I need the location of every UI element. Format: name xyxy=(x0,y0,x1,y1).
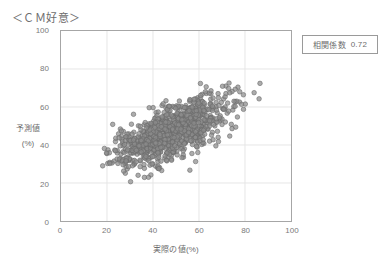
scatter-point xyxy=(201,128,206,133)
x-axis-tick-80: 80 xyxy=(226,226,266,235)
x-axis-tick-0: 0 xyxy=(40,226,80,235)
x-axis-title: 実際の値(%) xyxy=(60,243,292,254)
scatter-point xyxy=(207,119,212,124)
scatter-point xyxy=(198,81,203,86)
scatter-point xyxy=(130,132,135,137)
y-axis-tick-20: 20 xyxy=(9,179,49,188)
scatter-point xyxy=(169,113,174,118)
scatter-point xyxy=(185,113,190,118)
scatter-point xyxy=(144,126,149,131)
scatter-point xyxy=(177,99,182,104)
scatter-point xyxy=(119,129,124,134)
scatter-point xyxy=(131,138,136,143)
scatter-point xyxy=(117,136,122,141)
scatter-point xyxy=(202,101,207,106)
scatter-point xyxy=(241,107,246,112)
scatter-point xyxy=(139,138,144,143)
scatter-point xyxy=(116,161,121,166)
scatter-point xyxy=(182,105,187,110)
scatter-point xyxy=(232,99,237,104)
scatter-point xyxy=(180,117,185,122)
scatter-point xyxy=(216,96,221,101)
scatter-point xyxy=(122,142,127,147)
chart-title: ＜ＣＭ好意＞ xyxy=(12,9,80,25)
correlation-coefficient-box: 相関係数 0.72 xyxy=(302,35,378,54)
scatter-point xyxy=(211,137,216,142)
correlation-value: 0.72 xyxy=(351,40,367,49)
scatter-point xyxy=(165,133,170,138)
scatter-point xyxy=(134,148,139,153)
scatter-point xyxy=(138,164,143,169)
scatter-point xyxy=(176,122,181,127)
scatter-point xyxy=(163,127,168,132)
scatter-point xyxy=(189,138,194,143)
scatter-point xyxy=(170,127,175,132)
y-axis-title: 予測値 (%) xyxy=(6,121,50,151)
scatter-point xyxy=(169,158,174,163)
scatter-point xyxy=(229,122,234,127)
scatter-point xyxy=(209,88,214,93)
scatter-point xyxy=(121,163,126,168)
scatter-point xyxy=(216,135,221,140)
scatter-point xyxy=(180,155,185,160)
scatter-point xyxy=(153,125,158,130)
scatter-point xyxy=(188,97,193,102)
scatter-point xyxy=(157,166,162,171)
scatter-point xyxy=(227,134,232,139)
scatter-point xyxy=(204,85,209,90)
scatter-point xyxy=(216,139,221,144)
scatter-point xyxy=(220,84,225,89)
scatter-point xyxy=(159,159,164,164)
scatter-point xyxy=(228,91,233,96)
scatter-point xyxy=(164,158,169,163)
scatter-point xyxy=(136,173,141,178)
scatter-point xyxy=(221,107,226,112)
scatter-point xyxy=(233,104,238,109)
scatter-point xyxy=(100,164,105,169)
scatter-point xyxy=(227,81,232,86)
scatter-point xyxy=(215,129,220,134)
scatter-point xyxy=(217,115,222,120)
scatter-point xyxy=(193,135,198,140)
y-axis-tick-80: 80 xyxy=(9,64,49,73)
scatter-point xyxy=(226,109,231,114)
scatter-point xyxy=(131,112,136,117)
scatter-point xyxy=(202,108,207,113)
scatter-point xyxy=(207,107,212,112)
scatter-point xyxy=(139,150,144,155)
scatter-point xyxy=(211,96,216,101)
scatter-point xyxy=(110,122,115,127)
scatter-point xyxy=(164,113,169,118)
scatter-point xyxy=(190,151,195,156)
y-axis-tick-100: 100 xyxy=(9,26,49,35)
scatter-point xyxy=(161,102,166,107)
scatter-point xyxy=(181,149,186,154)
scatter-chart: ＜ＣＭ好意＞ 相関係数 0.72 020406080100 0204060801… xyxy=(0,0,387,271)
scatter-point xyxy=(252,90,257,95)
scatter-point xyxy=(198,93,203,98)
scatter-point xyxy=(146,175,151,180)
scatter-point xyxy=(138,124,143,129)
scatter-point xyxy=(104,151,109,156)
scatter-point xyxy=(194,144,199,149)
plot-area xyxy=(60,30,292,222)
x-axis-tick-100: 100 xyxy=(272,226,312,235)
scatter-point xyxy=(149,121,154,126)
scatter-point xyxy=(182,141,187,146)
scatter-point xyxy=(163,120,168,125)
scatter-point xyxy=(237,89,242,94)
scatter-point xyxy=(186,130,191,135)
scatter-point xyxy=(151,105,156,110)
scatter-point xyxy=(154,141,159,146)
scatter-point xyxy=(243,102,248,107)
scatter-point xyxy=(150,154,155,159)
scatter-point xyxy=(159,145,164,150)
scatter-point xyxy=(235,115,240,120)
scatter-point xyxy=(144,154,149,159)
scatter-point xyxy=(158,132,163,137)
scatter-point xyxy=(167,104,172,109)
scatter-points-layer xyxy=(61,31,291,221)
x-axis-tick-40: 40 xyxy=(133,226,173,235)
scatter-point xyxy=(257,97,262,102)
scatter-point xyxy=(128,179,133,184)
